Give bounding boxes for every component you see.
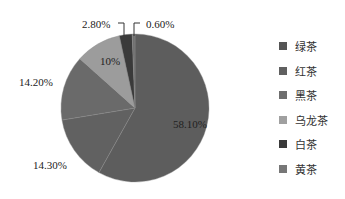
slice-label-oolong-tea: 10% — [100, 55, 120, 67]
leader-line — [118, 23, 124, 36]
legend-item-oolong-tea: 乌龙茶 — [279, 108, 328, 133]
slice-label-dark-tea: 14.20% — [19, 76, 53, 88]
legend-swatch-icon — [279, 67, 287, 75]
slice-label-white-tea: 2.80% — [82, 18, 110, 30]
slice-label-black-tea: 14.30% — [33, 159, 67, 171]
legend-swatch-icon — [279, 116, 287, 124]
legend-item-yellow-tea: 黄茶 — [279, 157, 328, 182]
legend-swatch-icon — [279, 91, 287, 99]
legend-item-dark-tea: 黑茶 — [279, 83, 328, 108]
legend-item-black-tea: 红茶 — [279, 59, 328, 84]
legend-swatch-icon — [279, 42, 287, 50]
legend-swatch-icon — [279, 140, 287, 148]
legend-item-green-tea: 绿茶 — [279, 34, 328, 59]
slice-label-green-tea: 58.10% — [173, 118, 207, 130]
legend-swatch-icon — [279, 165, 287, 173]
legend: 绿茶 红茶 黑茶 乌龙茶 白茶 黄茶 — [279, 34, 328, 181]
legend-item-white-tea: 白茶 — [279, 132, 328, 157]
slice-label-yellow-tea: 0.60% — [146, 18, 174, 30]
